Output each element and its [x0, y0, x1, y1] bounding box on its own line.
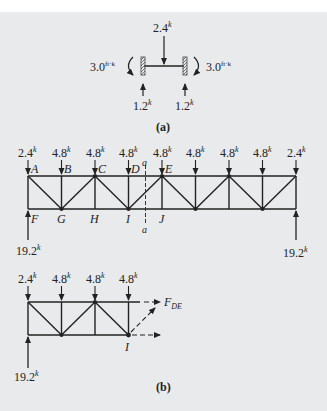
svg-text:2.4k: 2.4k	[287, 145, 306, 160]
reaction-left-label: 1.2k	[133, 98, 152, 113]
svg-text:C: C	[98, 162, 107, 176]
truss-figure: 2.4k 3.0ft·k 3.0ft·k 1.2k 1.2k (a)	[0, 0, 327, 411]
svg-text:4.8k: 4.8k	[119, 271, 138, 286]
svg-text:4.8k: 4.8k	[119, 145, 138, 160]
load-labels-full: 2.4k 4.8k 4.8k 4.8k 4.8k 4.8k 4.8k 4.8k …	[18, 145, 306, 160]
svg-text:G: G	[57, 212, 66, 226]
svg-text:2.4k: 2.4k	[18, 271, 37, 286]
moment-arrow-left-icon	[129, 57, 134, 75]
reaction-free-body-label: 19.2k	[14, 369, 39, 384]
moment-left-label: 3.0ft·k	[90, 60, 116, 74]
svg-text:B: B	[64, 162, 72, 176]
part-a-beam-element	[129, 36, 199, 96]
svg-text:H: H	[89, 212, 100, 226]
svg-text:4.8k: 4.8k	[253, 145, 272, 160]
section-label-bottom: a	[142, 224, 147, 235]
svg-text:J: J	[159, 212, 165, 226]
load-labels-free-body: 2.4k 4.8k 4.8k 4.8k	[18, 271, 138, 286]
svg-text:4.8k: 4.8k	[86, 145, 105, 160]
svg-text:4.8k: 4.8k	[52, 145, 71, 160]
node-label-i: I	[124, 340, 130, 354]
cut-member-forces	[131, 302, 160, 335]
svg-text:4.8k: 4.8k	[52, 271, 71, 286]
moment-right-label: 3.0ft·k	[206, 60, 232, 74]
fixed-support-left	[141, 57, 145, 75]
svg-text:2.4k: 2.4k	[18, 145, 37, 160]
svg-text:D: D	[130, 162, 140, 176]
node-labels: A B C D E F G H I J	[30, 162, 173, 226]
svg-text:E: E	[164, 162, 173, 176]
svg-text:4.8k: 4.8k	[186, 145, 205, 160]
moment-arrow-right-icon	[194, 57, 199, 75]
svg-text:4.8k: 4.8k	[220, 145, 239, 160]
force-label-fde: FDE	[163, 295, 182, 311]
reaction-right-label: 19.2k	[283, 245, 308, 260]
svg-text:A: A	[30, 162, 39, 176]
svg-text:4.8k: 4.8k	[86, 271, 105, 286]
caption-b: (b)	[156, 380, 171, 394]
caption-a: (a)	[156, 120, 170, 134]
fixed-support-right	[183, 57, 187, 75]
reaction-right-label: 1.2k	[175, 98, 194, 113]
full-truss	[28, 176, 296, 209]
load-label: 2.4k	[153, 20, 172, 35]
force-arrow-diagonal-icon	[131, 308, 155, 332]
section-label-top: a	[142, 157, 147, 168]
svg-text:4.8k: 4.8k	[153, 145, 172, 160]
svg-text:I: I	[125, 212, 131, 226]
reaction-left-label: 19.2k	[16, 243, 41, 258]
free-body-truss	[28, 302, 140, 335]
svg-text:F: F	[30, 212, 39, 226]
